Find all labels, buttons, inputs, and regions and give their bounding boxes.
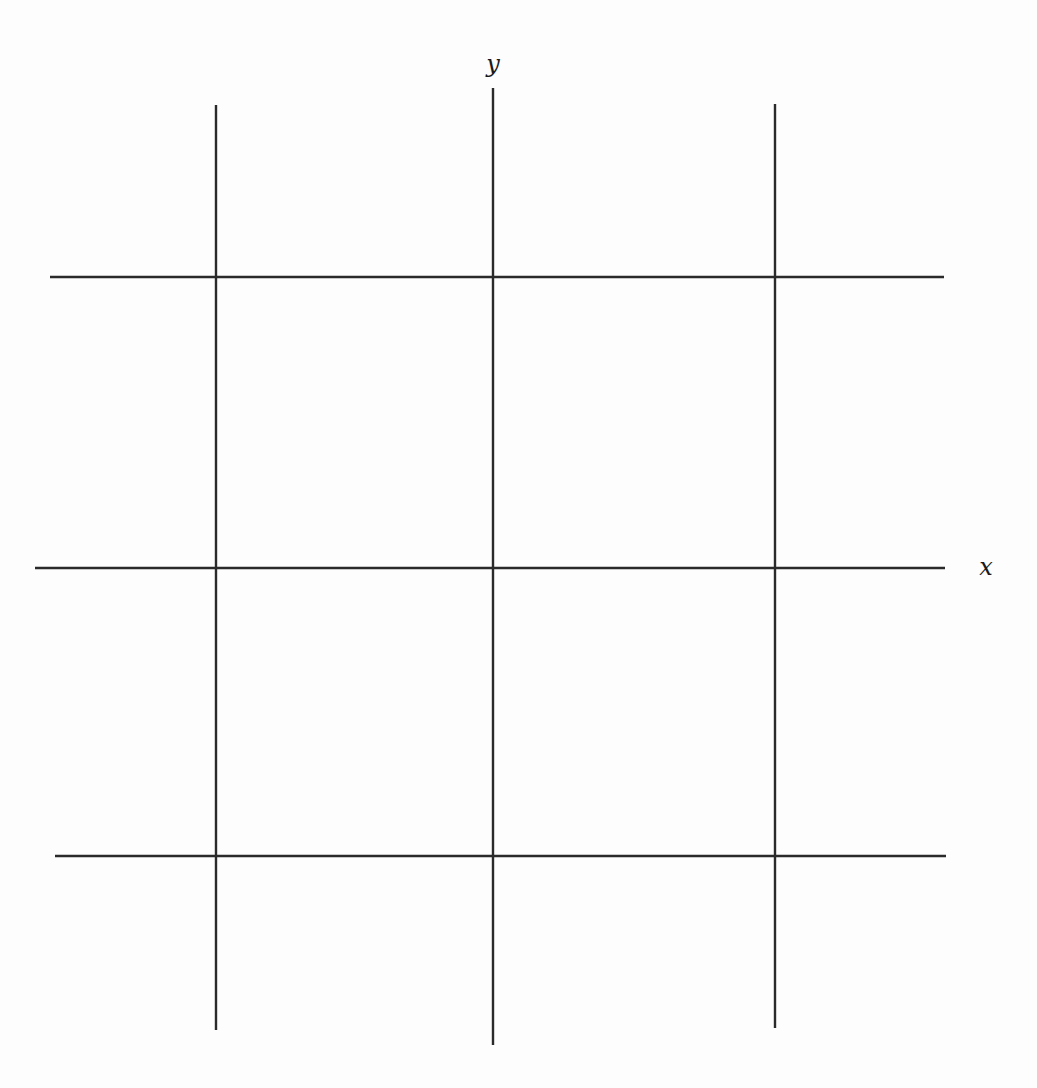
diagram-canvas: y x	[0, 0, 1037, 1088]
coordinate-grid-diagram: y x	[0, 0, 1037, 1088]
y-axis-label: y	[485, 50, 500, 78]
horizontal-lines	[35, 277, 946, 856]
x-axis-label: x	[979, 553, 993, 581]
vertical-lines	[216, 88, 775, 1045]
